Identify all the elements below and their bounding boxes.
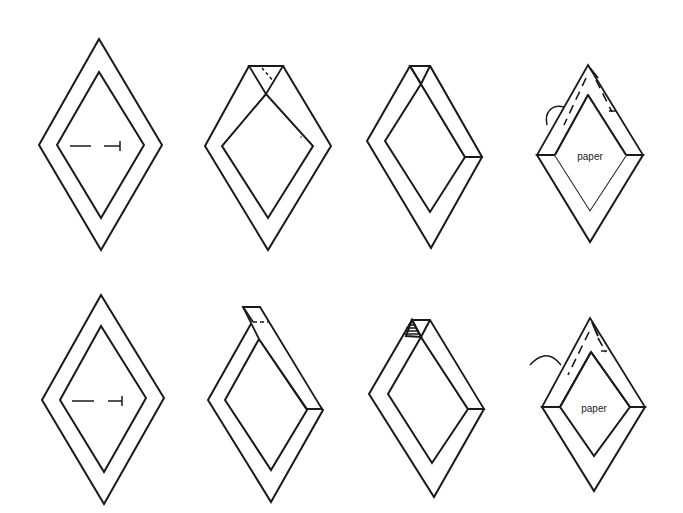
paper-label-top: paper — [577, 151, 603, 162]
step-3-right-edge-fold — [367, 66, 482, 248]
folding-diagram: paper paper — [0, 0, 683, 513]
paper-label-bottom: paper — [581, 403, 607, 414]
step-8-paper-inserted: paper — [530, 318, 645, 491]
step-2-top-notch — [205, 66, 331, 250]
step-4-paper-inserted: paper — [537, 65, 643, 242]
step-5-flat-frame — [42, 295, 164, 504]
step-6-tab-extended — [208, 307, 323, 502]
step-1-flat-frame — [39, 39, 162, 250]
step-7-hatched-tip — [369, 320, 484, 497]
